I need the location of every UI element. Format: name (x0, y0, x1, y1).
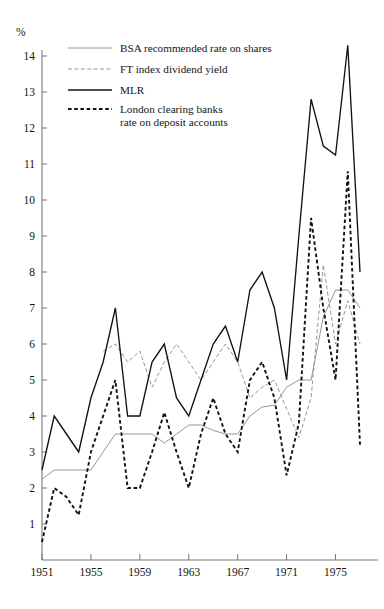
x-tick-label: 1951 (31, 566, 54, 578)
x-tick-label: 1955 (79, 566, 102, 578)
x-tick-label: 1963 (177, 566, 200, 578)
y-tick-label: 9 (29, 230, 35, 242)
y-tick-label: 4 (29, 410, 35, 422)
line-chart: 1413121110987654321195119551959196319671… (0, 0, 384, 609)
series-line-0 (42, 290, 360, 479)
x-tick-label: 1975 (324, 566, 347, 578)
y-tick-label: 6 (29, 338, 35, 350)
y-axis-unit-label: % (16, 26, 26, 38)
y-tick-label: 8 (29, 266, 35, 278)
legend-label-3: London clearing banks (120, 103, 223, 115)
x-tick-label: 1967 (226, 566, 249, 578)
y-tick-label: 3 (29, 446, 35, 458)
y-tick-label: 11 (24, 158, 35, 170)
legend-label-2: MLR (120, 84, 145, 96)
y-tick-label: 1 (29, 518, 35, 530)
y-tick-label: 13 (24, 86, 36, 98)
legend-label-4: rate on deposit accounts (120, 116, 228, 128)
y-tick-label: 14 (24, 50, 36, 62)
x-tick-label: 1959 (128, 566, 151, 578)
y-tick-label: 2 (29, 482, 35, 494)
y-tick-label: 7 (29, 302, 35, 314)
legend-label-0: BSA recommended rate on shares (120, 42, 272, 54)
x-tick-label: 1971 (275, 566, 298, 578)
series-line-3 (42, 171, 360, 542)
legend: BSA recommended rate on sharesFT index d… (68, 42, 272, 128)
chart-container: 1413121110987654321195119551959196319671… (0, 0, 384, 609)
y-tick-label: 5 (29, 374, 35, 386)
y-tick-label: 10 (24, 194, 36, 206)
legend-label-1: FT index dividend yield (120, 63, 228, 75)
y-tick-label: 12 (24, 122, 36, 134)
